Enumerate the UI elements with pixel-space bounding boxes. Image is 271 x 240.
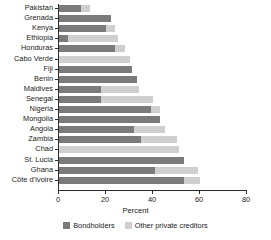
stacked-bar: [59, 56, 130, 63]
category-label: Nigeria: [30, 104, 53, 114]
bar-segment: [59, 96, 101, 103]
y-axis-tick: [55, 160, 58, 161]
category-label: Cabo Verde: [14, 54, 53, 64]
x-axis-tick: [152, 190, 153, 194]
plot-area: PakistanGrenadaKenyaEthiopiaHondurasCabo…: [58, 4, 246, 186]
category-label: St. Lucia: [24, 155, 53, 165]
stacked-bar: [59, 167, 198, 174]
category-label: Grenada: [24, 13, 53, 23]
category-label: Côte d'Ivoire: [12, 175, 53, 185]
bar-row: Benin: [58, 75, 246, 85]
bar-row: Ethiopia: [58, 34, 246, 44]
bar-segment: [134, 126, 165, 133]
bar-row: Kenya: [58, 24, 246, 34]
bar-segment: [101, 96, 153, 103]
stacked-bar: [59, 86, 139, 93]
bar-segment: [59, 126, 134, 133]
category-label: Kenya: [32, 23, 53, 33]
stacked-bar: [59, 96, 153, 103]
stacked-bar: [59, 25, 115, 32]
bar-segment: [59, 157, 184, 164]
bar-segment: [59, 25, 106, 32]
x-axis-tick: [199, 190, 200, 194]
bar-segment: [59, 56, 130, 63]
stacked-bar: [59, 106, 160, 113]
stacked-bar: [59, 116, 160, 123]
x-axis-tick-label: 40: [148, 195, 156, 204]
y-axis-tick: [55, 180, 58, 181]
category-label: Ghana: [31, 165, 53, 175]
chart-legend: Bondholders Other private creditors: [0, 221, 271, 230]
bar-row: Angola: [58, 125, 246, 135]
y-axis-tick: [55, 89, 58, 90]
y-axis-tick: [55, 48, 58, 49]
x-axis-tick-label: 80: [242, 195, 250, 204]
bar-segment: [68, 35, 117, 42]
y-axis-tick: [55, 99, 58, 100]
stacked-bar: [59, 45, 125, 52]
bar-segment: [59, 146, 179, 153]
bar-segment: [59, 5, 81, 12]
bar-row: Maldives: [58, 85, 246, 95]
x-axis-tick-label: 60: [195, 195, 203, 204]
stacked-bar: [59, 157, 184, 164]
stacked-bar: [59, 5, 90, 12]
category-label: Pakistan: [25, 3, 53, 13]
stacked-bar: [59, 15, 111, 22]
x-axis-tick: [58, 190, 59, 194]
legend-label: Other private creditors: [135, 221, 208, 230]
legend-label: Bondholders: [73, 221, 115, 230]
bar-row: Mongolia: [58, 115, 246, 125]
y-axis-tick: [55, 170, 58, 171]
bar-segment: [59, 35, 68, 42]
y-axis-tick: [55, 8, 58, 9]
bar-segment: [81, 5, 89, 12]
bar-segment: [59, 116, 160, 123]
category-label: Chad: [35, 144, 53, 154]
y-axis-tick: [55, 119, 58, 120]
stacked-bar-chart: PakistanGrenadaKenyaEthiopiaHondurasCabo…: [0, 0, 271, 240]
y-axis-tick: [55, 38, 58, 39]
category-label: Fiji: [44, 64, 53, 74]
bar-segment: [115, 45, 124, 52]
bar-row: Chad: [58, 145, 246, 155]
category-label: Senegal: [26, 94, 53, 104]
y-axis-tick: [55, 79, 58, 80]
bar-segment: [151, 106, 160, 113]
y-axis-tick: [55, 139, 58, 140]
category-label: Honduras: [21, 43, 53, 53]
x-axis-tick-label: 0: [56, 195, 60, 204]
bar-segment: [106, 25, 115, 32]
stacked-bar: [59, 76, 137, 83]
bar-segment: [59, 167, 155, 174]
bar-segment: [59, 15, 111, 22]
bar-segment: [184, 177, 200, 184]
bar-row: Zambia: [58, 135, 246, 145]
category-label: Mongolia: [23, 114, 53, 124]
category-label: Ethiopia: [26, 33, 53, 43]
bar-segment: [155, 167, 197, 174]
bar-row: Ghana: [58, 166, 246, 176]
y-axis-tick: [55, 69, 58, 70]
category-label: Benin: [34, 74, 53, 84]
bar-row: St. Lucia: [58, 156, 246, 166]
y-axis-tick: [55, 18, 58, 19]
bar-segment: [59, 106, 151, 113]
stacked-bar: [59, 126, 165, 133]
legend-swatch-icon: [63, 222, 70, 229]
bar-row: Pakistan: [58, 4, 246, 14]
legend-swatch-icon: [125, 222, 132, 229]
bar-segment: [59, 76, 137, 83]
x-axis-tick: [105, 190, 106, 194]
legend-item-other-private-creditors: Other private creditors: [125, 221, 208, 230]
y-axis-tick: [55, 28, 58, 29]
bar-row: Honduras: [58, 44, 246, 54]
y-axis-tick: [55, 109, 58, 110]
bar-row: Fiji: [58, 65, 246, 75]
bar-segment: [59, 66, 132, 73]
y-axis-tick: [55, 149, 58, 150]
category-label: Angola: [30, 124, 53, 134]
y-axis-tick: [55, 59, 58, 60]
x-axis-title: Percent: [0, 206, 271, 215]
category-label: Zambia: [28, 134, 53, 144]
